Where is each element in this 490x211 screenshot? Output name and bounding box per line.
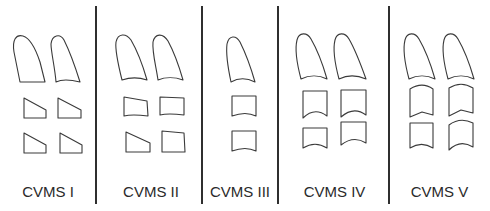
c3 [232,96,256,116]
c4-left [126,132,150,152]
stage-3-vertebrae [227,37,256,151]
c3-left [303,91,327,118]
c4 [232,131,256,151]
c3-left [24,98,46,118]
c2-left [13,36,45,82]
c3-right [58,98,81,118]
c2-left [116,35,147,80]
c2-right [51,36,80,82]
c4-left [24,133,46,153]
c3-left [410,85,433,117]
stage-2-vertebrae [116,35,185,152]
stage-4-vertebrae [296,34,366,148]
cvms-diagram: CVMS I CVMS II CVMS III CVMS IV CVMS V [0,0,490,211]
stage-label-3: CVMS III [202,183,278,200]
stage-label-1: CVMS I [0,183,96,200]
c2-right [153,35,183,80]
stage-label-2: CVMS II [100,183,202,200]
c4-right [60,133,82,153]
c2-left [296,34,327,79]
c2 [227,37,255,82]
stage-1-vertebrae [13,36,82,153]
c4-right [162,131,185,152]
c2-left [404,34,435,79]
c3-left [124,97,148,116]
c4-left [410,123,433,148]
c3-right [341,90,366,117]
c4-left [303,128,327,148]
c4-right [341,122,366,145]
stage-label-5: CVMS V [389,183,490,200]
stage-label-4: CVMS IV [280,183,389,200]
c3-right [160,97,184,115]
c2-right [334,34,366,79]
cvms-illustration [0,0,490,211]
c4-right [449,120,473,150]
c3-right [449,84,473,116]
c2-right [443,34,474,79]
stage-5-vertebrae [404,34,474,150]
